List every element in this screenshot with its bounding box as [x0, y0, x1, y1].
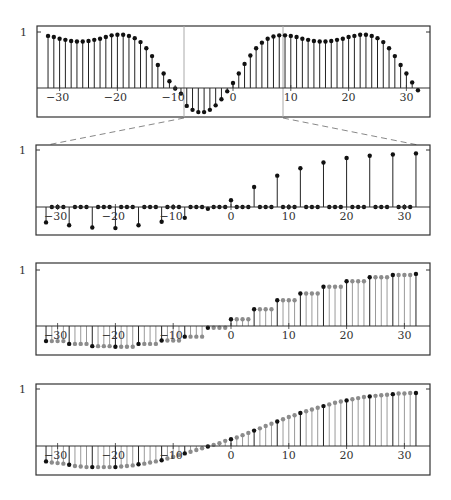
x-tick-label: −20	[102, 329, 125, 342]
stem-marker	[298, 291, 302, 295]
stem-marker	[379, 393, 383, 397]
stem-marker	[52, 35, 56, 39]
stem-marker	[344, 279, 348, 283]
stem-marker	[364, 33, 368, 37]
stem-marker	[90, 225, 94, 229]
stem-marker	[113, 345, 117, 349]
stem-marker	[263, 424, 267, 428]
stem-marker	[92, 38, 96, 42]
x-tick-label: 0	[228, 329, 235, 342]
stem-marker	[258, 307, 262, 311]
stem-marker	[344, 398, 348, 402]
stem-marker	[269, 422, 273, 426]
stem-marker	[362, 279, 366, 283]
stem-marker	[252, 428, 256, 432]
stem-marker	[294, 35, 298, 39]
stem-marker	[396, 391, 400, 395]
stem-marker	[144, 46, 148, 50]
stem-marker	[229, 317, 233, 321]
stem-marker	[136, 462, 140, 466]
stem-marker	[381, 40, 385, 44]
stem-marker	[277, 33, 281, 37]
stem-marker	[188, 334, 192, 338]
stem-marker	[281, 298, 285, 302]
stem-marker	[402, 273, 406, 277]
stem-marker	[275, 419, 279, 423]
stem-marker	[321, 404, 325, 408]
stem-marker	[393, 54, 397, 58]
stem-marker	[46, 34, 50, 38]
stem-marker	[107, 344, 111, 348]
x-tick-label: 30	[397, 449, 411, 462]
stem-marker	[283, 33, 287, 37]
stem-marker	[136, 223, 140, 227]
stem-marker	[242, 62, 246, 66]
stem-marker	[119, 464, 123, 468]
stem-marker	[327, 285, 331, 289]
stem-marker	[352, 34, 356, 38]
stem-marker	[356, 396, 360, 400]
x-tick-label: 0	[228, 449, 235, 462]
x-tick-label: 0	[230, 91, 237, 104]
stem-marker	[316, 291, 320, 295]
stem-marker	[148, 460, 152, 464]
x-tick-label: 10	[282, 449, 296, 462]
stem-marker	[269, 307, 273, 311]
stem-marker	[410, 80, 414, 84]
stem-marker	[254, 46, 258, 50]
stem-marker	[202, 110, 206, 114]
stem-marker	[113, 226, 117, 230]
stem-marker	[379, 275, 383, 279]
stem-marker	[67, 223, 71, 227]
stem-marker	[298, 411, 302, 415]
y-tick-label: 1	[19, 383, 26, 396]
y-tick-label: 1	[20, 26, 27, 39]
stem-marker	[287, 298, 291, 302]
stem-marker	[356, 279, 360, 283]
stem-marker	[136, 342, 140, 346]
stem-marker	[275, 173, 279, 177]
x-tick-label: −20	[104, 91, 127, 104]
x-tick-label: −20	[102, 449, 125, 462]
panel-original-signal: 1−30−20−100102030	[20, 26, 430, 117]
stem-marker	[346, 35, 350, 39]
stem-marker	[368, 154, 372, 158]
figure-canvas: 1−30−20−100102030 1−30−20−100102030 1−30…	[0, 0, 451, 500]
stem-marker	[121, 33, 125, 37]
stem-marker	[156, 63, 160, 67]
stem-marker	[318, 39, 322, 43]
stem-marker	[292, 413, 296, 417]
stem-marker	[335, 38, 339, 42]
stem-marker	[333, 285, 337, 289]
x-tick-label: 10	[284, 91, 298, 104]
stem-marker	[183, 451, 187, 455]
stem-marker	[229, 198, 233, 202]
stem-marker	[81, 39, 85, 43]
stem-marker	[161, 71, 165, 75]
stem-marker	[61, 461, 65, 465]
stem-marker	[183, 216, 187, 220]
stem-marker	[344, 156, 348, 160]
stem-marker	[416, 88, 420, 92]
stem-marker	[75, 39, 79, 43]
stem-marker	[350, 397, 354, 401]
stem-marker	[69, 39, 73, 43]
stem-marker	[150, 54, 154, 58]
stem-marker	[131, 463, 135, 467]
stem-marker	[200, 446, 204, 450]
stem-marker	[148, 342, 152, 346]
zoom-connector-lines	[47, 118, 418, 145]
stem-marker	[316, 406, 320, 410]
stem-marker	[304, 409, 308, 413]
stem-marker	[142, 342, 146, 346]
stem-marker	[96, 344, 100, 348]
stem-marker	[289, 34, 293, 38]
x-tick-label: 30	[397, 329, 411, 342]
stem-marker	[271, 34, 275, 38]
stem-marker	[391, 152, 395, 156]
x-tick-label: −20	[102, 210, 125, 223]
stem-marker	[138, 40, 142, 44]
stem-marker	[213, 103, 217, 107]
stem-marker	[310, 407, 314, 411]
stem-marker	[310, 291, 314, 295]
